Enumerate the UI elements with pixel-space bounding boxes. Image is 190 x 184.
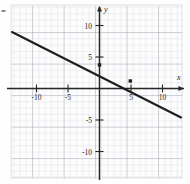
y-tick-label-neg10: -10	[82, 148, 92, 157]
y-tick-label-10: 10	[85, 22, 93, 31]
x-tick-label-5: 5	[129, 93, 133, 102]
x-tick-label-neg10: -10	[32, 93, 42, 102]
x-axis-label: x	[176, 73, 181, 82]
coordinate-plane: x y -10 -5 5 10 10 5 -5 -10	[0, 0, 190, 184]
x-tick-label-neg5: -5	[65, 93, 71, 102]
graph-figure: x y -10 -5 5 10 10 5 -5 -10	[0, 0, 190, 184]
y-tick-label-neg5: -5	[86, 116, 92, 125]
y-tick-label-5: 5	[88, 53, 92, 62]
x-tick-label-10: 10	[159, 93, 167, 102]
y-axis-label: y	[103, 5, 108, 14]
